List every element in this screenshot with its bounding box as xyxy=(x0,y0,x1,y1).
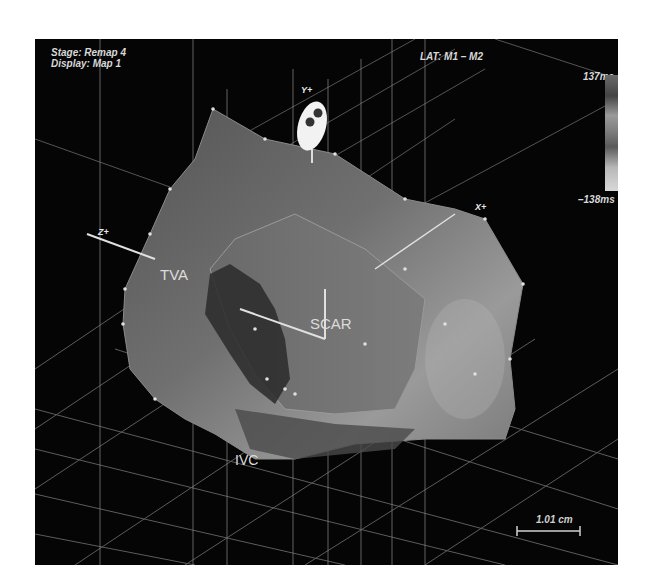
colorbar-min-label: –138ms xyxy=(578,194,615,205)
stage-info: Stage: Remap 4 Display: Map 1 xyxy=(51,47,126,69)
scale-bar xyxy=(517,526,580,536)
lat-label: LAT: M1 – M2 xyxy=(420,51,483,62)
ivc-label: IVC xyxy=(235,452,258,468)
scale-bar-label: 1.01 cm xyxy=(536,514,573,525)
axis-z-label: Z+ xyxy=(98,227,109,237)
axis-x-label: X+ xyxy=(475,202,486,212)
stage-label: Stage: Remap 4 xyxy=(51,47,126,58)
scar-label: SCAR xyxy=(310,315,352,332)
electroanatomic-map-scene xyxy=(35,39,618,565)
tva-label: TVA xyxy=(160,266,188,283)
axis-y-label: Y+ xyxy=(301,85,312,95)
display-label: Display: Map 1 xyxy=(51,58,126,69)
3d-map-viewport[interactable]: Stage: Remap 4 Display: Map 1 LAT: M1 – … xyxy=(35,39,618,565)
colorbar xyxy=(605,75,618,191)
